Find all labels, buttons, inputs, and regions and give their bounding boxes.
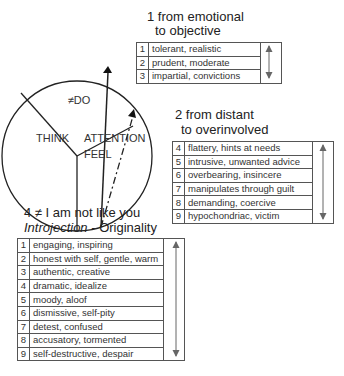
- originality-label: - Originality: [88, 220, 157, 235]
- label-think: THINK: [36, 132, 70, 144]
- row-number: 8: [18, 334, 30, 348]
- row-number: 9: [18, 347, 30, 361]
- section-4-heading-line1: 4 ≠ I am not like you: [24, 205, 140, 221]
- row-number: 2: [137, 56, 149, 70]
- table-row: 6 dismissive, self-pity: [18, 306, 185, 320]
- section-1-table: 1 tolerant, realistic 2 prudent, moderat…: [136, 42, 282, 84]
- row-text: accusatory, tormented: [30, 334, 164, 348]
- row-number: 7: [173, 182, 185, 196]
- label-do: ≠DO: [68, 94, 91, 106]
- row-text: flattery, hints at needs: [185, 142, 313, 156]
- table-row: 9 self-destructive, despair: [18, 347, 185, 361]
- row-number: 2: [18, 252, 30, 266]
- row-number: 6: [18, 306, 30, 320]
- label-feel: FEEL: [84, 148, 112, 160]
- enneagram-circle-diagram: ≠DO THINK ATTENTION FEEL: [0, 0, 180, 240]
- row-number: 9: [173, 209, 185, 223]
- row-text: overbearing, insincere: [185, 169, 313, 183]
- double-arrow-icon: [262, 42, 276, 82]
- row-number: 7: [18, 320, 30, 334]
- row-text: self-destructive, despair: [30, 347, 164, 361]
- table-row: 7 detest, confused: [18, 320, 185, 334]
- table-row: 3 impartial, convictions: [137, 70, 282, 84]
- section-4-table: 1 engaging, inspiring 2 honest with self…: [17, 238, 185, 361]
- row-number: 6: [173, 169, 185, 183]
- row-text: prudent, moderate: [149, 56, 261, 70]
- row-text: dramatic, idealize: [30, 279, 164, 293]
- row-text: engaging, inspiring: [30, 239, 164, 253]
- table-row: 9 hypochondriac, victim: [173, 209, 334, 223]
- row-text: tolerant, realistic: [149, 43, 261, 57]
- table-row: 1 engaging, inspiring: [18, 239, 185, 253]
- row-number: 5: [18, 293, 30, 307]
- row-number: 3: [18, 266, 30, 280]
- row-text: hypochondriac, victim: [185, 209, 313, 223]
- table-row: 3 authentic, creative: [18, 266, 185, 280]
- row-text: intrusive, unwanted advice: [185, 155, 313, 169]
- row-text: detest, confused: [30, 320, 164, 334]
- row-text: dismissive, self-pity: [30, 306, 164, 320]
- table-row: 1 tolerant, realistic: [137, 43, 282, 57]
- row-text: honest with self, gentle, warm: [30, 252, 164, 266]
- row-text: manipulates through guilt: [185, 182, 313, 196]
- table-row: 4 flattery, hints at needs: [173, 142, 334, 156]
- table-row: 2 prudent, moderate: [137, 56, 282, 70]
- row-number: 5: [173, 155, 185, 169]
- row-number: 3: [137, 70, 149, 84]
- section-2-heading-line2: to overinvolved: [181, 122, 268, 138]
- section-2-heading-line1: 2 from distant: [175, 107, 254, 123]
- row-text: impartial, convictions: [149, 70, 261, 84]
- label-attention: ATTENTION: [84, 132, 146, 144]
- row-number: 1: [137, 43, 149, 57]
- introjection-label: Introjection: [24, 220, 88, 235]
- row-text: authentic, creative: [30, 266, 164, 280]
- row-number: 4: [173, 142, 185, 156]
- table-row: 5 intrusive, unwanted advice: [173, 155, 334, 169]
- table-row: 2 honest with self, gentle, warm: [18, 252, 185, 266]
- row-text: demanding, coercive: [185, 196, 313, 210]
- row-text: moody, aloof: [30, 293, 164, 307]
- table-row: 7 manipulates through guilt: [173, 182, 334, 196]
- section-2-table: 4 flattery, hints at needs 5 intrusive, …: [172, 141, 334, 224]
- section-1-heading-line2: to objective: [155, 23, 221, 39]
- row-number: 8: [173, 196, 185, 210]
- table-row: 4 dramatic, idealize: [18, 279, 185, 293]
- double-arrow-icon: [316, 141, 330, 223]
- section-4-heading-line2: Introjection - Originality: [24, 220, 157, 236]
- row-number: 1: [18, 239, 30, 253]
- table-row: 8 demanding, coercive: [173, 196, 334, 210]
- table-row: 8 accusatory, tormented: [18, 334, 185, 348]
- table-row: 5 moody, aloof: [18, 293, 185, 307]
- table-row: 6 overbearing, insincere: [173, 169, 334, 183]
- double-arrow-icon: [169, 238, 183, 360]
- row-number: 4: [18, 279, 30, 293]
